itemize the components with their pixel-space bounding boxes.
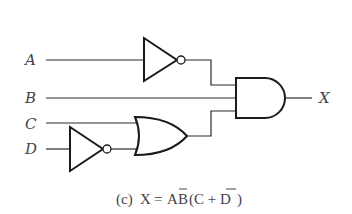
wire-not-a-to-and	[185, 60, 236, 85]
not-gate-a-bubble-icon	[177, 56, 185, 64]
not-gate-a-triangle-icon	[144, 38, 177, 81]
wire-or-to-and	[187, 111, 236, 136]
input-label-c: C	[25, 115, 37, 133]
not-gate-d-triangle-icon	[70, 127, 103, 171]
input-label-d: D	[24, 140, 37, 158]
caption-prefix: (c)	[116, 191, 133, 208]
logic-diagram: A B C D X (c) X = A B (C + D )	[0, 0, 352, 214]
not-gate-d-bubble-icon	[103, 145, 111, 153]
or-gate-icon	[135, 117, 187, 155]
caption-equals: =	[154, 191, 162, 207]
not-gate-d	[70, 127, 111, 171]
not-gate-a	[144, 38, 185, 81]
and-gate-icon	[236, 78, 285, 118]
caption-term-a: A	[167, 191, 178, 207]
caption-close-paren: )	[237, 191, 242, 208]
caption-term-b: B	[178, 191, 188, 207]
input-label-b: B	[24, 89, 36, 107]
caption-lhs: X	[140, 191, 151, 207]
input-label-a: A	[23, 51, 36, 69]
output-label-x: X	[318, 89, 331, 107]
caption: (c) X = A B (C + D )	[116, 189, 242, 208]
caption-term-or: (C + D	[189, 191, 231, 208]
